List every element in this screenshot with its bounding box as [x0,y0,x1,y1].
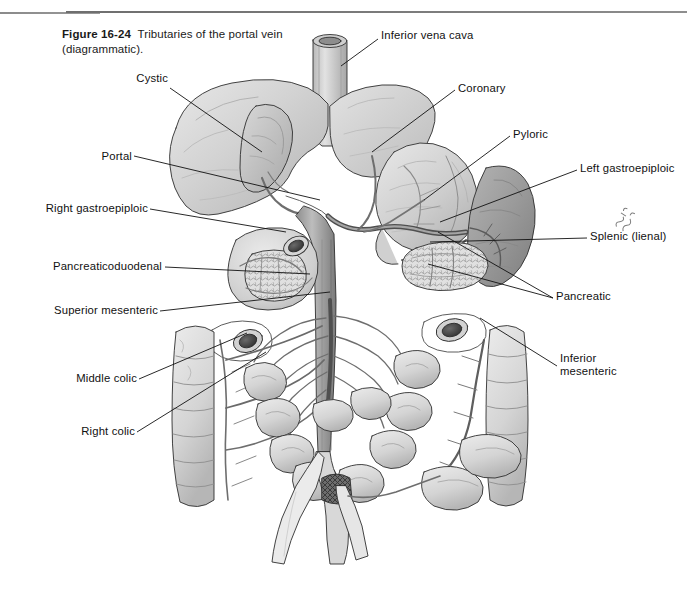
colic-marginal-vein [220,340,228,500]
label-pancreatic: Pancreatic [556,290,611,303]
label-pancreaticoduodenal: Pancreaticoduodenal [14,260,162,273]
label-portal: Portal [30,150,132,163]
label-coronary: Coronary [458,82,506,95]
pancreas-body-tail [402,242,488,291]
label-inferior-vena-cava: Inferior vena cava [381,29,474,42]
descending-colon [486,325,528,506]
label-splenic-lienal: Splenic (lienal) [590,230,667,243]
label-right-colic: Right colic [50,425,135,438]
label-superior-mesenteric: Superior mesenteric [20,304,158,317]
jejunum-cut-end-right [434,315,470,344]
label-pyloric: Pyloric [513,128,548,141]
label-cystic: Cystic [64,72,168,85]
label-middle-colic: Middle colic [40,372,137,385]
label-left-gastroepiploic: Left gastroepiploic [580,162,675,175]
textbook-figure-page: Figure 16-24 Tributaries of the portal v… [0,0,687,600]
stomach [376,143,478,252]
label-right-gastroepiploic: Right gastroepiploic [10,202,148,215]
label-inferior-mesenteric: Inferior mesenteric [560,352,617,379]
ascending-colon [172,326,214,507]
